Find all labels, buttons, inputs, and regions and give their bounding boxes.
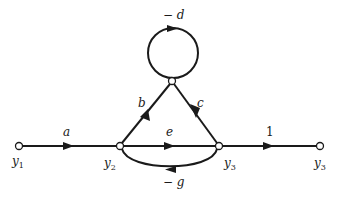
arrow-a-icon	[63, 142, 74, 150]
node-label-y1-sub: 1	[19, 161, 24, 170]
gain-label-one: 1	[266, 126, 274, 138]
node-top	[169, 78, 176, 85]
node-label-y3-var: y	[224, 156, 231, 170]
gain-label-g: − g	[163, 176, 185, 188]
gain-label-b: b	[138, 97, 146, 109]
node-label-y2: y2	[104, 157, 116, 172]
node-label-y3-sub: 3	[231, 163, 236, 172]
edge-g	[122, 149, 217, 166]
arrow-one-icon	[263, 142, 274, 150]
node-label-y3-out-sub: 3	[321, 163, 326, 172]
node-y2	[117, 143, 124, 150]
node-y1	[16, 143, 23, 150]
signal-flow-graph	[0, 0, 339, 198]
edge-d-self-loop	[148, 28, 198, 78]
gain-label-c: c	[197, 97, 204, 109]
arrow-d-icon	[167, 25, 178, 32]
gain-label-e: e	[166, 126, 173, 138]
arrow-e-icon	[164, 142, 175, 150]
node-label-y1: y1	[12, 155, 24, 170]
node-label-y2-sub: 2	[111, 163, 116, 172]
node-y3	[216, 143, 223, 150]
node-label-y1-var: y	[12, 154, 19, 168]
node-label-y3-out-var: y	[314, 156, 321, 170]
node-y3-out	[317, 143, 324, 150]
gain-label-d: − d	[163, 9, 185, 21]
node-label-y2-var: y	[104, 156, 111, 170]
node-label-y3: y3	[224, 157, 236, 172]
gain-label-a: a	[63, 126, 70, 138]
node-label-y3-out: y3	[314, 157, 326, 172]
